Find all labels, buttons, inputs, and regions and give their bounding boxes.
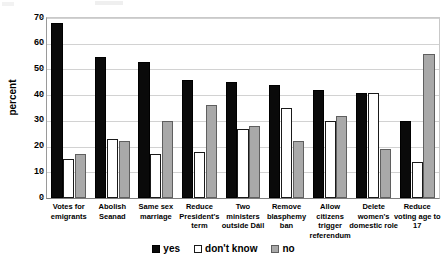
bar-dk bbox=[63, 159, 74, 198]
bar-group bbox=[352, 18, 396, 198]
x-axis-labels: Votes for emigrantsAbolish SeanadSame se… bbox=[47, 202, 439, 244]
y-tick-mark bbox=[41, 171, 44, 172]
bar-no bbox=[380, 149, 391, 198]
bar-yes bbox=[356, 93, 367, 198]
bar-group bbox=[221, 18, 265, 198]
y-tick-mark bbox=[41, 94, 44, 95]
chart-legend: yesdon't knowno bbox=[0, 243, 447, 254]
bar-no bbox=[249, 126, 260, 198]
y-tick-mark bbox=[41, 43, 44, 44]
bar-group bbox=[91, 18, 135, 198]
bar-yes bbox=[95, 57, 106, 198]
x-tick-label: Votes for emigrants bbox=[44, 202, 94, 221]
bar-group bbox=[308, 18, 352, 198]
bar-yes bbox=[313, 90, 324, 198]
bar-no bbox=[336, 116, 347, 198]
y-tick-mark bbox=[41, 120, 44, 121]
y-tick-mark bbox=[41, 146, 44, 147]
bar-dk bbox=[281, 108, 292, 198]
y-tick-label: 10 bbox=[16, 167, 44, 176]
y-tick-label: 50 bbox=[16, 64, 44, 73]
scan-artifact-top bbox=[95, 1, 123, 5]
bar-group bbox=[134, 18, 178, 198]
scan-artifact-left bbox=[2, 2, 14, 6]
legend-swatch-yes bbox=[152, 245, 160, 253]
bar-dk bbox=[325, 121, 336, 198]
bar-no bbox=[162, 121, 173, 198]
x-tick-label: Delete women's domestic role bbox=[349, 202, 399, 231]
bar-no bbox=[75, 154, 86, 198]
legend-label: don't know bbox=[205, 243, 257, 254]
legend-item[interactable]: yes bbox=[152, 243, 180, 254]
y-tick-label: 0 bbox=[16, 193, 44, 202]
legend-item[interactable]: don't know bbox=[194, 243, 257, 254]
bar-dk bbox=[150, 154, 161, 198]
legend-item[interactable]: no bbox=[271, 243, 294, 254]
bars-layer bbox=[47, 18, 439, 198]
bar-no bbox=[206, 105, 217, 198]
bar-no bbox=[423, 54, 434, 198]
bar-yes bbox=[138, 62, 149, 198]
legend-label: yes bbox=[163, 243, 180, 254]
y-tick-mark bbox=[41, 68, 44, 69]
bar-dk bbox=[412, 162, 423, 198]
bar-dk bbox=[368, 93, 379, 198]
bar-no bbox=[119, 141, 130, 198]
y-tick-mark bbox=[41, 17, 44, 18]
x-tick-label: Abolish Seanad bbox=[88, 202, 138, 221]
legend-swatch-dk bbox=[194, 245, 202, 253]
bar-dk bbox=[194, 152, 205, 198]
bar-no bbox=[293, 141, 304, 198]
y-tick-label: 30 bbox=[16, 115, 44, 124]
bar-yes bbox=[269, 85, 280, 198]
legend-swatch-no bbox=[271, 245, 279, 253]
x-tick-label: Reduce voting age to 17 bbox=[392, 202, 442, 231]
bar-group bbox=[178, 18, 222, 198]
x-tick-label: Same sex marriage bbox=[131, 202, 181, 221]
bar-dk bbox=[237, 129, 248, 198]
bar-chart: percent 010203040506070 Votes for emigra… bbox=[0, 0, 447, 262]
y-tick-label: 40 bbox=[16, 90, 44, 99]
y-tick-mark bbox=[41, 197, 44, 198]
x-tick-label: Remove blasphemy ban bbox=[262, 202, 312, 231]
y-tick-label: 70 bbox=[16, 13, 44, 22]
bar-group bbox=[395, 18, 439, 198]
legend-label: no bbox=[282, 243, 294, 254]
bar-yes bbox=[182, 80, 193, 198]
y-tick-label: 20 bbox=[16, 141, 44, 150]
x-tick-label: Allow citizens trigger referendum bbox=[305, 202, 355, 240]
bar-yes bbox=[400, 121, 411, 198]
bar-dk bbox=[107, 139, 118, 198]
bar-group bbox=[47, 18, 91, 198]
x-tick-label: Reduce President's term bbox=[175, 202, 225, 231]
x-tick-label: Two ministers outside Dáil bbox=[218, 202, 268, 231]
bar-yes bbox=[51, 23, 62, 198]
bar-yes bbox=[226, 82, 237, 198]
bar-group bbox=[265, 18, 309, 198]
y-axis-ticks: 010203040506070 bbox=[10, 17, 44, 199]
y-tick-label: 60 bbox=[16, 38, 44, 47]
